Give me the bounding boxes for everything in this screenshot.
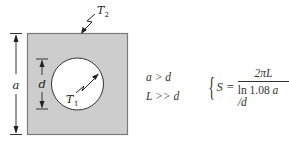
t1-subscript: 1 — [74, 100, 78, 108]
formula-lhs: S — [216, 80, 222, 95]
left-brace: { — [208, 73, 215, 101]
condition-a-greater-d: a > d — [146, 72, 171, 84]
formula-numerator: 2πL — [254, 67, 272, 81]
formula-denominator: ln 1.08 a /d — [238, 82, 289, 108]
dimension-d-label: d — [39, 77, 46, 91]
formula-fraction: 2πL ln 1.08 a /d — [238, 67, 289, 108]
t2-pointer-arrow — [81, 14, 95, 34]
formula-equals: = — [227, 80, 234, 95]
condition-l-much-greater-d: L >> d — [146, 91, 179, 103]
numerator-text: 2πL — [254, 67, 272, 79]
dimension-a-label: a — [13, 78, 20, 92]
shape-factor-diagram: a d T 1 T 2 a > d L >> d { S = — [0, 0, 289, 144]
constant-text: 1.08 — [250, 84, 270, 96]
shape-factor-formula: { S = 2πL ln 1.08 a /d — [205, 70, 289, 104]
t2-subscript: 2 — [105, 11, 109, 19]
ln-text: ln — [238, 84, 247, 96]
